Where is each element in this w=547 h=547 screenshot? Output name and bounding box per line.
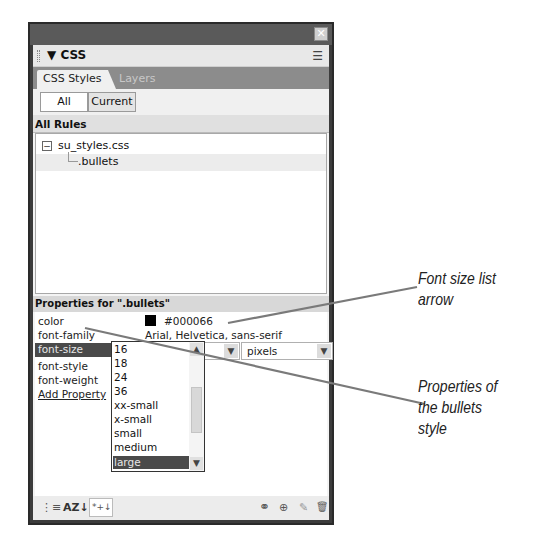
color-value: #000066 xyxy=(164,315,213,327)
rules-tree: − su_styles.css .bullets xyxy=(35,133,327,294)
alpha-sort-icon[interactable]: AZ↓ xyxy=(63,501,89,514)
tab-layers[interactable]: Layers xyxy=(119,72,155,85)
panel-titlebar[interactable]: ✕ xyxy=(30,24,332,45)
callout-line: the bullets xyxy=(418,397,498,418)
tab-bar: CSS Styles Layers xyxy=(33,67,329,89)
unit-value: pixels xyxy=(247,345,277,357)
tree-item-bullets[interactable]: .bullets xyxy=(36,154,326,171)
callout-line: Properties of xyxy=(418,376,498,397)
panel-title[interactable]: ▼ CSS xyxy=(47,48,86,62)
font-size-unit-select[interactable]: pixels ▼ xyxy=(241,342,333,360)
property-name: color xyxy=(38,315,64,327)
scroll-up-icon[interactable]: ▲ xyxy=(190,343,203,356)
property-value[interactable]: #000066 xyxy=(145,315,213,327)
callout-line: style xyxy=(418,418,498,439)
close-icon[interactable]: ✕ xyxy=(314,27,328,41)
property-name: font-family xyxy=(38,329,95,341)
tree-item-stylesheet[interactable]: − su_styles.css xyxy=(36,138,326,155)
bottom-toolbar: ⋮≡ AZ↓ *+↓ ⚭ ⊕ ✎ 🗑 xyxy=(33,496,329,520)
property-name: font-weight xyxy=(38,374,98,386)
grip-icon[interactable] xyxy=(37,50,40,62)
color-swatch[interactable] xyxy=(145,315,156,326)
property-name: font-size xyxy=(38,343,83,355)
all-button[interactable]: All xyxy=(40,92,88,112)
dropdown-option[interactable]: 24 xyxy=(113,371,189,384)
css-panel-header[interactable]: ▼ CSS ☰ xyxy=(33,45,329,67)
tab-css-styles[interactable]: CSS Styles xyxy=(37,70,108,89)
add-property-label[interactable]: Add Property xyxy=(38,388,106,400)
attach-stylesheet-icon[interactable]: ⚭ xyxy=(259,499,270,514)
edit-style-icon[interactable]: ✎ xyxy=(299,501,308,514)
chevron-down-icon[interactable]: ▼ xyxy=(317,344,331,358)
tree-item-label: .bullets xyxy=(78,155,118,168)
tree-item-label: su_styles.css xyxy=(58,139,129,152)
new-rule-icon[interactable]: ⊕ xyxy=(279,501,288,514)
property-value[interactable]: Arial, Helvetica, sans-serif xyxy=(145,329,282,341)
callout-bullets-properties: Properties of the bullets style xyxy=(418,376,498,439)
all-rules-header: All Rules xyxy=(33,115,329,133)
dropdown-scrollbar[interactable]: ▲ ▼ xyxy=(189,342,204,471)
callout-font-size-list-arrow: Font size list arrow xyxy=(418,268,496,310)
scroll-thumb[interactable] xyxy=(191,387,202,433)
set-properties-view-button[interactable]: *+↓ xyxy=(89,498,113,517)
view-toggle: All Current xyxy=(33,89,329,115)
property-row-color[interactable]: color #000066 xyxy=(35,315,327,328)
scroll-down-icon[interactable]: ▼ xyxy=(190,457,203,470)
properties-header: Properties for ".bullets" xyxy=(33,296,329,312)
font-size-list-arrow-icon[interactable]: ▼ xyxy=(224,344,238,358)
property-name: font-style xyxy=(38,360,88,372)
category-view-icon[interactable]: ⋮≡ xyxy=(41,501,61,514)
dropdown-option[interactable]: 16 xyxy=(113,343,189,356)
tree-connector-icon xyxy=(68,152,78,162)
dropdown-option-selected[interactable]: large xyxy=(113,456,189,469)
dropdown-option[interactable]: 18 xyxy=(113,357,189,370)
dropdown-option[interactable]: 36 xyxy=(113,385,189,398)
callout-line: arrow xyxy=(418,289,496,310)
options-menu-icon[interactable]: ☰ xyxy=(312,49,323,63)
collapse-icon[interactable]: − xyxy=(42,141,52,151)
set-properties-icon: *+↓ xyxy=(92,502,112,512)
dropdown-option[interactable]: small xyxy=(113,427,189,440)
dropdown-option[interactable]: xx-small xyxy=(113,399,189,412)
delete-icon[interactable]: 🗑 xyxy=(316,501,329,512)
current-button[interactable]: Current xyxy=(88,92,136,112)
dropdown-option[interactable]: x-small xyxy=(113,413,189,426)
dropdown-option[interactable]: medium xyxy=(113,441,189,454)
font-size-dropdown-list[interactable]: 16 18 24 36 xx-small x-small small mediu… xyxy=(111,341,205,472)
callout-line: Font size list xyxy=(418,268,496,289)
